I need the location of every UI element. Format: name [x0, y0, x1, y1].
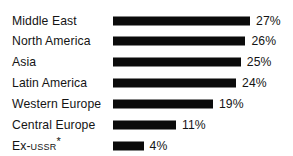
- bar: [113, 58, 241, 67]
- bar-row: Asia25%: [0, 52, 293, 73]
- bar: [113, 16, 250, 25]
- bar: [113, 37, 245, 46]
- category-label: Latin America: [12, 77, 87, 89]
- bar-row: Western Europe19%: [0, 94, 293, 115]
- category-label: Ex-USSR*: [12, 140, 61, 152]
- category-label-text: Ex-: [12, 139, 31, 153]
- category-label-smallcaps: USSR: [31, 139, 57, 153]
- bar-row: Middle East27%: [0, 10, 293, 31]
- category-label: North America: [12, 35, 91, 47]
- bar-value-label: 26%: [251, 35, 276, 47]
- bar-value-label: 27%: [256, 14, 281, 26]
- bar-row: Ex-USSR*4%: [0, 135, 293, 156]
- category-label: Middle East: [12, 14, 77, 26]
- bar-row: Latin America24%: [0, 73, 293, 94]
- category-label: Asia: [12, 56, 36, 68]
- bar: [113, 121, 176, 130]
- horizontal-bar-chart: Middle East27%North America26%Asia25%Lat…: [0, 0, 293, 156]
- bar: [113, 100, 213, 109]
- bar: [113, 79, 236, 88]
- bar-row: Central Europe11%: [0, 115, 293, 136]
- bar-value-label: 25%: [247, 56, 272, 68]
- category-label: Central Europe: [12, 119, 95, 131]
- bar-row: North America26%: [0, 31, 293, 52]
- bar-value-label: 24%: [242, 77, 267, 89]
- bar-value-label: 4%: [150, 140, 168, 152]
- bar-value-label: 19%: [219, 98, 244, 110]
- bar-value-label: 11%: [182, 119, 206, 131]
- bar: [113, 141, 144, 150]
- footnote-marker: *: [56, 135, 60, 147]
- category-label: Western Europe: [12, 98, 101, 110]
